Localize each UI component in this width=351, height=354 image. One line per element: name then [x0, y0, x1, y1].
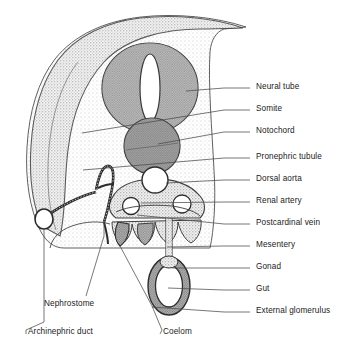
leader-line-archinephric-duct: [26, 229, 44, 334]
label-nephrostome: Nephrostome: [44, 300, 94, 308]
gonad: [160, 256, 178, 268]
label-dorsal-aorta: Dorsal aorta: [256, 175, 302, 183]
mesentery: [166, 218, 172, 262]
label-coelom: Coelom: [163, 328, 192, 336]
renal-artery-right: [173, 195, 191, 213]
label-external-glomerulus: External glomerulus: [256, 307, 330, 315]
label-notochord: Notochord: [256, 127, 295, 135]
label-mesentery: Mesentery: [256, 241, 295, 249]
label-postcardinal-vein: Postcardinal vein: [256, 219, 320, 227]
label-gonad: Gonad: [256, 263, 281, 271]
nephrostome: [35, 209, 53, 229]
label-somite: Somite: [256, 105, 282, 113]
label-renal-artery: Renal artery: [256, 197, 302, 205]
label-gut: Gut: [256, 285, 270, 293]
label-pronephric-tubule: Pronephric tubule: [256, 153, 322, 161]
label-neural-tube: Neural tube: [256, 83, 299, 91]
dorsal-aorta: [142, 167, 168, 193]
neural-tube: [140, 54, 160, 122]
label-archinephric-duct: Archinephric duct: [28, 328, 93, 336]
figure-container: Neural tubeSomiteNotochordPronephric tub…: [0, 0, 351, 354]
